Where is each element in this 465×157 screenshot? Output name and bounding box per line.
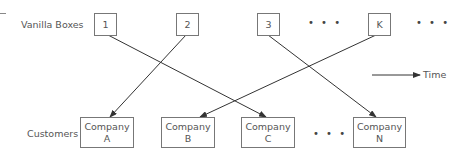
- company-a-box: Company A: [80, 117, 134, 148]
- company-c-box: Company C: [241, 117, 295, 148]
- company-n-line1: Company: [357, 121, 402, 133]
- ellipsis-top-right: • • •: [416, 17, 450, 28]
- vanilla-boxes-label: Vanilla Boxes: [21, 19, 84, 30]
- arrow-k-to-company-b: [200, 35, 376, 117]
- company-c-line1: Company: [245, 121, 290, 133]
- company-b-line2: B: [185, 133, 192, 145]
- vanilla-box-k: K: [368, 13, 391, 36]
- arrow-1-to-company-c: [108, 35, 266, 117]
- ellipsis-bottom: • • •: [313, 128, 347, 139]
- company-b-box: Company B: [161, 117, 215, 148]
- company-n-box: Company N: [353, 117, 406, 148]
- arrow-3-to-company-n: [268, 35, 376, 117]
- time-label: Time: [423, 69, 446, 80]
- vanilla-box-1: 1: [94, 13, 117, 36]
- company-b-line1: Company: [165, 121, 210, 133]
- arrow-2-to-company-a: [110, 35, 186, 117]
- company-n-line2: N: [376, 133, 383, 145]
- company-a-line1: Company: [84, 121, 129, 133]
- customers-label: Customers: [27, 128, 78, 139]
- company-a-line2: A: [104, 133, 111, 145]
- vanilla-box-2: 2: [176, 13, 199, 36]
- company-c-line2: C: [265, 133, 272, 145]
- vanilla-box-3: 3: [257, 13, 280, 36]
- allocation-diagram: Vanilla Boxes Customers 1 2 3 • • • K • …: [0, 0, 465, 157]
- ellipsis-top-middle: • • •: [308, 17, 342, 28]
